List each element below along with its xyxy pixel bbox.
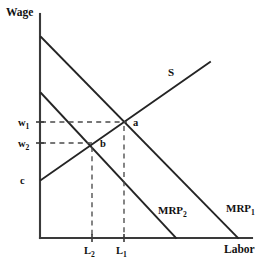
- y-axis-label: Wage: [6, 6, 33, 19]
- x-tick-base-l2: L: [84, 245, 91, 256]
- y-tick-sub-w2: 2: [26, 143, 30, 152]
- point-label-b: b: [100, 138, 106, 149]
- curve-label-supply: S: [168, 66, 174, 78]
- y-tick-label-w1: w1: [18, 117, 30, 131]
- point-label-c: c: [20, 175, 25, 186]
- labor-market-diagram: Wage Labor w1 w2 L2 L1 S MRP2 MRP1 a b c: [0, 0, 270, 259]
- curve-mrp1: [41, 37, 238, 238]
- y-tick-sub-w1: 1: [26, 122, 30, 131]
- curve-sub-mrp1: 1: [251, 208, 255, 217]
- x-axis-label: Labor: [224, 243, 255, 255]
- x-tick-base-l1: L: [116, 245, 123, 256]
- y-tick-label-w2: w2: [18, 138, 30, 152]
- x-tick-sub-l1: 1: [123, 250, 127, 259]
- point-label-a: a: [133, 117, 139, 128]
- curve-base-supply: S: [168, 66, 174, 78]
- x-tick-label-l1: L1: [116, 245, 127, 259]
- x-tick-label-l2: L2: [84, 245, 95, 259]
- curve-label-mrp1: MRP1: [226, 202, 255, 217]
- diagram-canvas: Wage Labor w1 w2 L2 L1 S MRP2 MRP1 a b c: [0, 0, 270, 259]
- curve-sub-mrp2: 2: [183, 210, 187, 219]
- curve-base-mrp1: MRP: [226, 202, 251, 214]
- curve-label-mrp2: MRP2: [158, 204, 187, 219]
- curve-base-mrp2: MRP: [158, 204, 183, 216]
- x-tick-sub-l2: 2: [91, 250, 95, 259]
